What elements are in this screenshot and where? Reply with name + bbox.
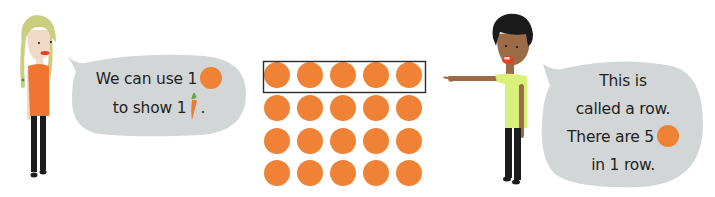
orange-counter-icon [657, 125, 679, 147]
left-bubble-text: We can use 1 to show 1. [84, 65, 234, 123]
counter [297, 95, 323, 121]
orange-counter-icon [200, 67, 222, 89]
left-bubble-line-1: We can use 1 [84, 65, 234, 93]
counter [396, 128, 422, 154]
counter [330, 95, 356, 121]
left-bubble-line-2: to show 1. [84, 93, 234, 123]
counter [363, 62, 389, 88]
right-bubble-line-4: in 1 row. [548, 151, 698, 179]
right-bubble-line-3: There are 5 [548, 123, 698, 151]
girl-character [21, 15, 56, 178]
right-bubble-line-2: called a row. [548, 95, 698, 123]
counter [330, 62, 356, 88]
counter [363, 160, 389, 186]
counter [363, 95, 389, 121]
counter [264, 128, 290, 154]
counter [396, 160, 422, 186]
counter [264, 160, 290, 186]
counter [363, 128, 389, 154]
counter [396, 62, 422, 88]
counter [297, 62, 323, 88]
boy-character [443, 14, 533, 185]
counter [297, 160, 323, 186]
counter [264, 62, 290, 88]
counter [264, 95, 290, 121]
counter-array [264, 62, 422, 186]
counter [396, 95, 422, 121]
counter [330, 128, 356, 154]
counter [330, 160, 356, 186]
right-bubble-line-1: This is [548, 67, 698, 95]
counter [297, 128, 323, 154]
right-bubble-text: This is called a row. There are 5 in 1 r… [548, 67, 698, 179]
carrot-icon [188, 91, 200, 121]
